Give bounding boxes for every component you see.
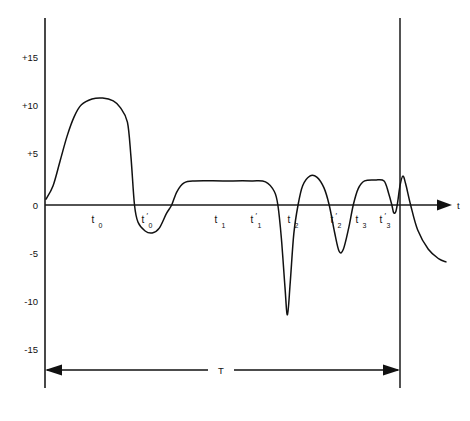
x-tick-base-t2: t — [288, 214, 291, 225]
x-tick-sub-t3-prime: 3 — [387, 222, 391, 229]
x-tick-label-t0-prime: t ′ 0 — [142, 211, 153, 229]
x-tick-label-t0: t 0 — [92, 214, 103, 229]
t-axis-label: t — [457, 200, 460, 211]
x-tick-base-t0-prime: t — [142, 214, 145, 225]
x-tick-base-t3: t — [356, 214, 359, 225]
x-tick-label-t3: t 3 — [356, 214, 367, 229]
y-tick-label-10: +10 — [22, 100, 38, 111]
y-tick-label-neg15: -15 — [24, 344, 38, 355]
x-tick-base-t0: t — [92, 214, 95, 225]
period-arrow-left-icon — [45, 365, 62, 376]
x-tick-base-t3-prime: t — [380, 214, 383, 225]
waveform-plot: +15 +10 +5 0 -5 -10 -15 t 0 t ′ 0 t 1 t … — [0, 0, 470, 421]
x-tick-base-t1-prime: t — [251, 214, 254, 225]
x-tick-label-t1: t 1 — [215, 214, 226, 229]
x-tick-prime-mark-t1: ′ — [256, 211, 258, 220]
x-tick-sub-t0: 0 — [99, 222, 103, 229]
x-tick-sub-t2: 2 — [295, 222, 299, 229]
waveform-curve — [46, 98, 446, 315]
period-dimension: T — [45, 362, 400, 378]
x-axis-arrow-icon — [437, 200, 452, 211]
y-tick-label-5: +5 — [27, 148, 38, 159]
waveform-figure: +15 +10 +5 0 -5 -10 -15 t 0 t ′ 0 t 1 t … — [0, 0, 470, 421]
x-tick-base-t2-prime: t — [331, 214, 334, 225]
period-label: T — [218, 365, 224, 376]
x-tick-sub-t0-prime: 0 — [149, 222, 153, 229]
x-tick-prime-mark-t3: ′ — [385, 211, 387, 220]
y-tick-label-neg10: -10 — [24, 296, 38, 307]
x-tick-sub-t2-prime: 2 — [338, 222, 342, 229]
x-tick-sub-t1-prime: 1 — [258, 222, 262, 229]
y-tick-label-15: +15 — [22, 52, 38, 63]
x-tick-base-t1: t — [215, 214, 218, 225]
x-tick-sub-t1: 1 — [222, 222, 226, 229]
x-tick-sub-t3: 3 — [363, 222, 367, 229]
x-tick-prime-mark-t0: ′ — [147, 211, 149, 220]
period-arrow-right-icon — [383, 365, 400, 376]
x-tick-label-t2-prime: t ′ 2 — [331, 211, 342, 229]
y-tick-label-0: 0 — [33, 200, 38, 211]
y-tick-label-neg5: -5 — [30, 248, 38, 259]
x-tick-prime-mark-t2: ′ — [336, 211, 338, 220]
x-tick-label-t3-prime: t ′ 3 — [380, 211, 391, 229]
x-tick-label-t1-prime: t ′ 1 — [251, 211, 262, 229]
